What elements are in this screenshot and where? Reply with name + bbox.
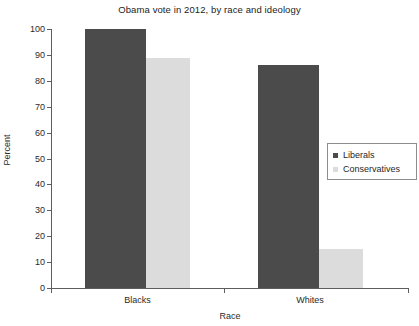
bar-chart: Obama vote in 2012, by race and ideology… — [0, 0, 419, 326]
y-axis-tick-label: 40 — [1, 179, 51, 189]
bar-whites-liberals — [258, 65, 319, 288]
bar-blacks-conservatives — [146, 58, 190, 289]
chart-legend: Liberals Conservatives — [327, 143, 417, 180]
bar-whites-conservatives — [319, 249, 363, 288]
x-axis-tick — [408, 289, 409, 293]
y-axis-tick-label: 30 — [1, 205, 51, 215]
x-axis-tick — [51, 289, 52, 293]
legend-item-conservatives[interactable]: Conservatives — [333, 162, 416, 176]
x-axis-tick-label: Blacks — [124, 295, 151, 305]
y-axis-tick-label: 60 — [1, 128, 51, 138]
y-axis-line — [51, 29, 52, 289]
y-axis-tick-label: 0 — [1, 283, 51, 293]
y-axis-tick-label: 80 — [1, 76, 51, 86]
x-axis-tick — [224, 289, 225, 293]
chart-title: Obama vote in 2012, by race and ideology — [0, 4, 419, 15]
legend-label: Liberals — [343, 150, 375, 160]
x-axis-tick-label: Whites — [296, 295, 324, 305]
y-axis-tick-label: 10 — [1, 257, 51, 267]
y-axis-tick-label: 20 — [1, 231, 51, 241]
y-axis-tick-label: 50 — [1, 154, 51, 164]
light-square-swatch-icon — [333, 167, 338, 172]
y-axis-tick-label: 100 — [1, 24, 51, 34]
legend-item-liberals[interactable]: Liberals — [333, 148, 416, 162]
dark-square-swatch-icon — [333, 153, 338, 158]
bar-blacks-liberals — [85, 29, 146, 288]
x-axis-title: Race — [51, 311, 409, 321]
legend-label: Conservatives — [343, 164, 400, 174]
y-axis-tick-label: 70 — [1, 102, 51, 112]
y-axis-tick-label: 90 — [1, 50, 51, 60]
x-axis-line — [51, 288, 409, 289]
